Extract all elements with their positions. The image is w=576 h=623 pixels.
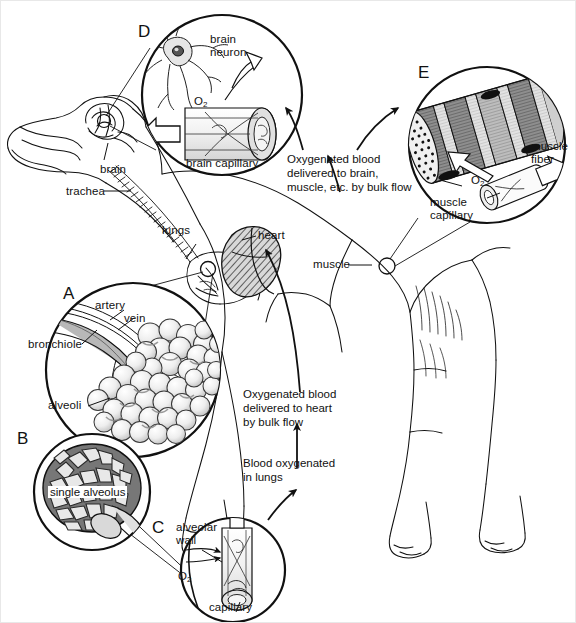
label-o2-panel-c: O2 [178, 570, 192, 586]
label-muscle-fiber: muscle fiber [531, 140, 568, 166]
flow-text-lungs: Blood oxygenated in lungs [243, 456, 335, 484]
panel-letter-c: C [152, 518, 165, 538]
label-capillary-panel-c: capillary [209, 601, 252, 614]
o2-subscript-e: 2 [480, 179, 485, 188]
flow-text-to-heart: Oxygenated blood delivered to heart by b… [243, 387, 336, 429]
label-artery: artery [95, 299, 125, 312]
label-lungs: lungs [162, 224, 190, 237]
label-muscle-capillary: muscle capillary [430, 196, 473, 222]
o2-subscript-c: 2 [187, 575, 192, 584]
panel-letter-a: A [63, 284, 75, 304]
label-vein: vein [124, 312, 146, 325]
label-brain: brain [100, 163, 126, 176]
label-heart: heart [258, 229, 285, 242]
label-o2-panel-e: O2 [471, 174, 485, 190]
o2-text-c: O [178, 570, 187, 582]
label-brain-capillary: brain capillary [186, 157, 258, 170]
o2-text-d: O [194, 95, 203, 107]
o2-subscript-d: 2 [203, 100, 208, 109]
label-o2-panel-d: O2 [194, 95, 208, 111]
label-brain-neuron: brain neuron [210, 33, 246, 59]
label-bronchiole: bronchiole [28, 338, 82, 351]
label-single-alveolus: single alveolus [48, 486, 127, 498]
panel-letter-b: B [17, 429, 29, 449]
o2-text-e: O [471, 174, 480, 186]
flow-text-to-body: Oxygenated blood delivered to brain, mus… [287, 152, 412, 194]
label-alveoli: alveoli [48, 399, 81, 412]
panel-letter-e: E [418, 63, 430, 83]
label-alveolar-wall: alveolar wall [176, 521, 217, 547]
label-muscle: muscle [313, 258, 350, 271]
panel-letter-d: D [138, 22, 151, 42]
label-trachea: trachea [66, 185, 105, 198]
